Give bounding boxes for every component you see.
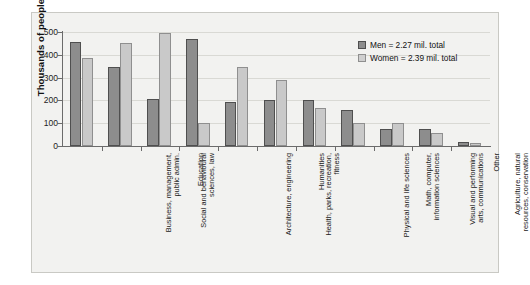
bar-women [276, 80, 288, 146]
y-axis-tick [57, 100, 63, 101]
y-axis-tick [57, 78, 63, 79]
bar-men [341, 110, 353, 146]
x-axis-line [62, 146, 491, 147]
bar-women [353, 123, 365, 146]
bar-women [82, 58, 94, 146]
y-axis-tick-label: 100 [24, 119, 58, 127]
bar-men [419, 129, 431, 146]
bar-men [70, 42, 82, 146]
x-axis-tick [296, 147, 297, 151]
bar-women [431, 133, 443, 146]
y-axis-line [62, 31, 63, 147]
bar-women [237, 67, 249, 146]
x-axis-category-label: Other [493, 153, 501, 171]
bar-men [303, 100, 315, 146]
x-axis-category-label: Physical and life sciences [404, 153, 412, 237]
y-axis-tick-label: 200 [24, 96, 58, 104]
bar-men [380, 129, 392, 146]
y-axis-tick [57, 32, 63, 33]
bar-women [198, 123, 210, 146]
bar-women [159, 33, 171, 146]
y-axis-tick-label: 500 [24, 28, 58, 36]
x-axis-category-label: Architecture, engineering [285, 153, 293, 235]
x-axis-category-label: Humanities [317, 153, 325, 190]
x-axis-tick [374, 147, 375, 151]
x-axis-category-label: Business, management, public admin. [166, 153, 183, 232]
y-axis-tick-labels: 0100200300400500 [14, 0, 58, 285]
women-swatch-icon [358, 54, 366, 62]
y-axis-tick-label: 400 [24, 51, 58, 59]
y-axis-tick [57, 55, 63, 56]
bar-women [470, 143, 482, 146]
bar-women [120, 43, 132, 146]
gridline [63, 32, 490, 33]
bar-men [108, 67, 120, 146]
x-axis-category-label: Visual and performing arts, communicatio… [469, 153, 486, 225]
bar-women [392, 123, 404, 146]
x-axis-tick [257, 147, 258, 151]
x-axis-category-label: Math, computer, information sciences [426, 153, 443, 220]
chart-figure: Thousands of people 0100200300400500 Men… [0, 0, 530, 285]
x-axis-tick [412, 147, 413, 151]
x-axis-tick [179, 147, 180, 151]
x-axis-tick [218, 147, 219, 151]
y-axis-tick [57, 146, 63, 147]
chart-legend: Men = 2.27 mil. total Women = 2.39 mil. … [358, 40, 457, 66]
legend-label-men: Men = 2.27 mil. total [370, 40, 445, 50]
bar-men [225, 102, 237, 146]
y-axis-tick-label: 0 [24, 142, 58, 150]
bar-women [315, 108, 327, 146]
legend-item-men: Men = 2.27 mil. total [358, 40, 457, 50]
legend-label-women: Women = 2.39 mil. total [370, 53, 457, 63]
bar-men [147, 99, 159, 146]
x-axis-tick [141, 147, 142, 151]
bar-men [458, 142, 470, 146]
x-axis-tick [335, 147, 336, 151]
x-axis-category-label: Agriculture, natural resources, conserva… [514, 153, 530, 231]
men-swatch-icon [358, 41, 366, 49]
x-axis-category-label: Health, parks, recreation, fitness [324, 153, 341, 236]
x-axis-tick [102, 147, 103, 151]
x-axis-category-label: Education [197, 153, 205, 186]
legend-item-women: Women = 2.39 mil. total [358, 53, 457, 63]
y-axis-tick [57, 123, 63, 124]
y-axis-tick-label: 300 [24, 74, 58, 82]
bar-men [264, 100, 276, 146]
x-axis-tick [451, 147, 452, 151]
bar-men [186, 39, 198, 146]
